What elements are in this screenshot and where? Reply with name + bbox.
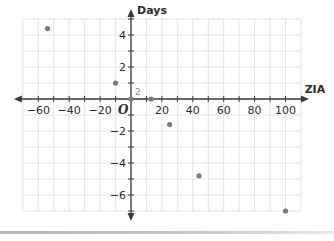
y-tick-label: −2	[110, 125, 126, 138]
x-axis-title: ZIA	[305, 83, 326, 96]
y-axis-title: Days	[137, 4, 167, 17]
x-axis-right-arrow-icon	[301, 96, 309, 103]
data-point	[196, 173, 201, 178]
x-axis-left-arrow-icon	[14, 96, 22, 103]
bottom-divider	[0, 231, 334, 234]
y-axis-up-arrow-icon	[128, 9, 135, 17]
data-point	[128, 96, 133, 101]
data-point	[148, 96, 153, 101]
x-tick-label: −60	[27, 104, 50, 117]
y-tick-label: −6	[110, 189, 126, 202]
x-tick-label: −40	[58, 104, 81, 117]
data-point	[283, 208, 288, 213]
data-point	[45, 26, 50, 31]
data-points	[45, 26, 288, 214]
y-axis-down-arrow-icon	[128, 213, 135, 221]
x-tick-label: 80	[248, 104, 262, 117]
tick-labels: −60−40−202040608010042−2−4−6	[27, 29, 296, 202]
x-tick-label: 40	[186, 104, 200, 117]
x-tick-label: 20	[155, 104, 169, 117]
origin-count-annotation: 2	[135, 87, 141, 97]
x-tick-label: 100	[275, 104, 296, 117]
y-tick-label: 2	[119, 61, 126, 74]
x-tick-label: 60	[217, 104, 231, 117]
x-tick-label: −20	[88, 104, 111, 117]
data-point	[113, 80, 118, 85]
y-tick-label: 4	[119, 29, 126, 42]
data-point	[167, 122, 172, 127]
origin-label: O	[118, 103, 129, 117]
scatter-chart: −60−40−202040608010042−2−4−6 ZIA Days O …	[0, 0, 334, 241]
y-tick-label: −4	[110, 157, 126, 170]
